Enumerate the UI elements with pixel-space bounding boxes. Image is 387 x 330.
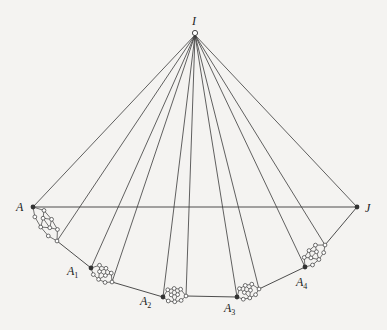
linkage-node: [55, 239, 59, 243]
point-A4: [303, 265, 308, 270]
linkage-node: [314, 243, 318, 247]
linkage: [91, 263, 114, 284]
linkage-node: [56, 228, 60, 232]
linkage-node: [254, 293, 258, 297]
ray-line: [195, 35, 305, 267]
linkage-node: [166, 299, 170, 303]
linkage-node: [110, 280, 114, 284]
label-A3: A3: [223, 301, 235, 317]
label-A1: A1: [66, 264, 78, 280]
connector-segment: [186, 296, 237, 297]
linkage-node: [41, 216, 45, 220]
linkage-node: [184, 294, 188, 298]
linkage-node: [322, 251, 326, 255]
linkage-node: [109, 271, 113, 275]
linkage-node: [250, 282, 254, 286]
point-A: [31, 205, 36, 210]
ray-line: [112, 35, 195, 282]
construction-diagram: I AA1A2A3A4J: [0, 0, 387, 330]
linkage-node: [242, 291, 246, 295]
linkage-node: [248, 296, 252, 300]
ray-line: [57, 35, 195, 241]
linkage-node: [33, 215, 37, 219]
linkage: [33, 207, 59, 243]
connector-segment: [112, 282, 163, 297]
linkage-node: [98, 263, 102, 267]
label-A2: A2: [139, 294, 151, 310]
linkage-node: [103, 281, 107, 285]
linkage: [302, 243, 327, 267]
point-A1: [89, 266, 94, 271]
linkage-node: [249, 288, 253, 292]
linkage-node: [311, 263, 315, 267]
ray-line: [195, 35, 237, 297]
point-A2: [161, 295, 166, 300]
linkage-node: [169, 293, 173, 297]
linkage-node: [104, 274, 108, 278]
linkage-node: [97, 277, 101, 281]
point-J: [355, 205, 360, 210]
linkage-node: [166, 288, 170, 292]
linkage-node: [173, 300, 177, 304]
linkage-node: [302, 256, 306, 260]
linkage-node: [257, 287, 261, 291]
linkage-node: [91, 273, 95, 277]
linkage-node: [243, 284, 247, 288]
ray-line: [195, 35, 325, 245]
linkage-node: [176, 293, 180, 297]
linkage: [237, 282, 261, 301]
linkage-node: [238, 287, 242, 291]
linkage-shapes: [33, 207, 327, 304]
linkage-node: [50, 217, 54, 221]
label-J: J: [365, 201, 371, 215]
polyline-connectors: [57, 207, 357, 297]
linkage: [163, 287, 188, 304]
diagram-canvas: I AA1A2A3A4J: [0, 0, 387, 330]
apex-point-I: [192, 30, 197, 35]
ray-line: [33, 35, 195, 207]
linkage-node: [104, 266, 108, 270]
label-A4: A4: [295, 275, 307, 291]
apex-label: I: [191, 14, 197, 28]
linkage-node: [323, 243, 327, 247]
linkage-node: [172, 287, 176, 291]
ray-line: [91, 35, 195, 268]
linkage-node: [241, 297, 245, 301]
connector-segment: [325, 207, 357, 245]
ray-line: [195, 35, 357, 207]
linkage-node: [179, 287, 183, 291]
point-A3: [235, 295, 240, 300]
linkage-node: [98, 270, 102, 274]
linkage-node: [48, 226, 52, 230]
linkage-node: [315, 250, 319, 254]
linkage-node: [307, 249, 311, 253]
linkage-node: [317, 258, 321, 262]
ray-line: [195, 35, 259, 289]
linkage-node: [179, 299, 183, 303]
linkage-node: [46, 234, 50, 238]
label-A: A: [15, 200, 24, 214]
linkage-node: [39, 225, 43, 229]
linkage-node: [309, 256, 313, 260]
linkage-node: [42, 209, 46, 213]
